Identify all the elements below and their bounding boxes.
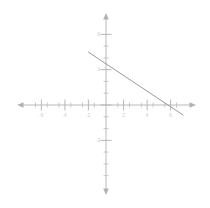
data-series-line <box>89 52 184 115</box>
y-axis-bottom-arrow-icon <box>103 189 109 196</box>
x-tick-label: -4 <box>63 113 68 118</box>
x-tick-label: 4 <box>146 113 149 118</box>
chart-canvas: -6 -4 -2 2 4 6 6 3 -3 <box>0 0 210 208</box>
y-axis-top-arrow-icon <box>103 13 109 20</box>
x-tick-label: -6 <box>39 113 44 118</box>
y-tick-label: 6 <box>97 32 100 37</box>
coordinate-plane-chart: -6 -4 -2 2 4 6 6 3 -3 <box>0 0 210 208</box>
y-axis <box>103 13 109 195</box>
x-tick-label: -2 <box>86 113 91 118</box>
x-axis-right-arrow-icon <box>190 102 197 108</box>
y-tick-label: -3 <box>96 138 101 143</box>
y-tick-label: 3 <box>97 67 100 72</box>
x-tick-label: 2 <box>122 113 125 118</box>
y-axis-tick-labels: 6 3 -3 <box>96 32 101 143</box>
x-axis-left-arrow-icon <box>17 102 24 108</box>
linear-function-line <box>89 52 184 115</box>
x-tick-label: 6 <box>169 113 172 118</box>
